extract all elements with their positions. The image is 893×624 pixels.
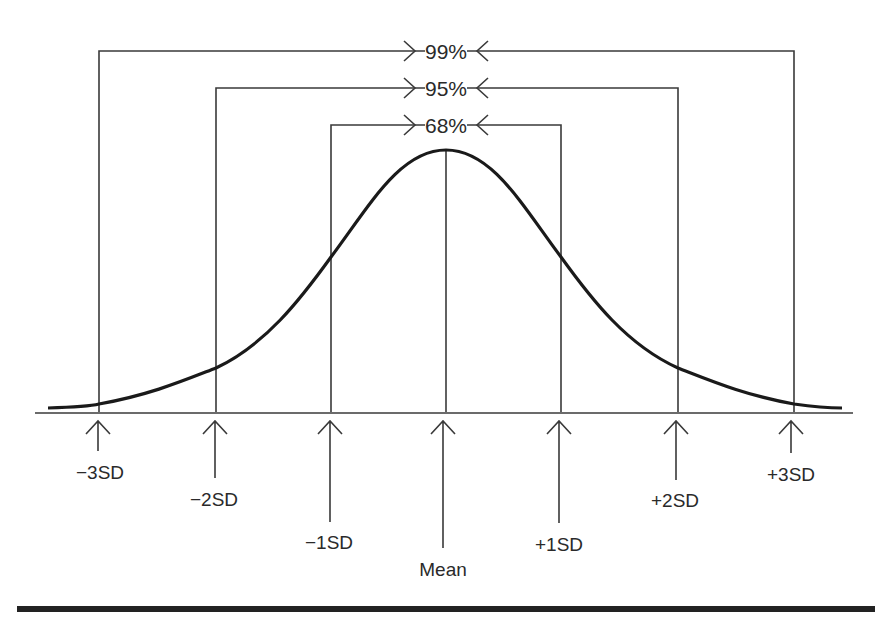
- arrow-mean: [431, 421, 455, 548]
- arrow-m2: [203, 421, 227, 478]
- label-mean: Mean: [419, 559, 467, 580]
- axis-arrows: [86, 421, 803, 548]
- arrow-m1: [318, 421, 342, 522]
- bottom-rule: [17, 606, 875, 612]
- bell-curve: [48, 150, 842, 408]
- label-minus-1sd: −1SD: [305, 532, 353, 553]
- arrow-p2: [664, 421, 688, 480]
- label-plus-2sd: +2SD: [651, 490, 699, 511]
- label-minus-3sd: −3SD: [76, 462, 124, 483]
- label-minus-2sd: −2SD: [190, 489, 238, 510]
- label-plus-3sd: +3SD: [767, 464, 815, 485]
- interval-label-68: 68%: [425, 114, 467, 137]
- arrow-p3: [779, 421, 803, 453]
- arrow-m3: [86, 421, 110, 451]
- arrow-p1: [547, 421, 571, 523]
- normal-distribution-diagram: 99% 95% 68% −3SD −2SD −1SD Mean +1SD +2S…: [0, 0, 893, 624]
- interval-label-95: 95%: [425, 77, 467, 100]
- interval-label-99: 99%: [425, 40, 467, 63]
- label-plus-1sd: +1SD: [535, 534, 583, 555]
